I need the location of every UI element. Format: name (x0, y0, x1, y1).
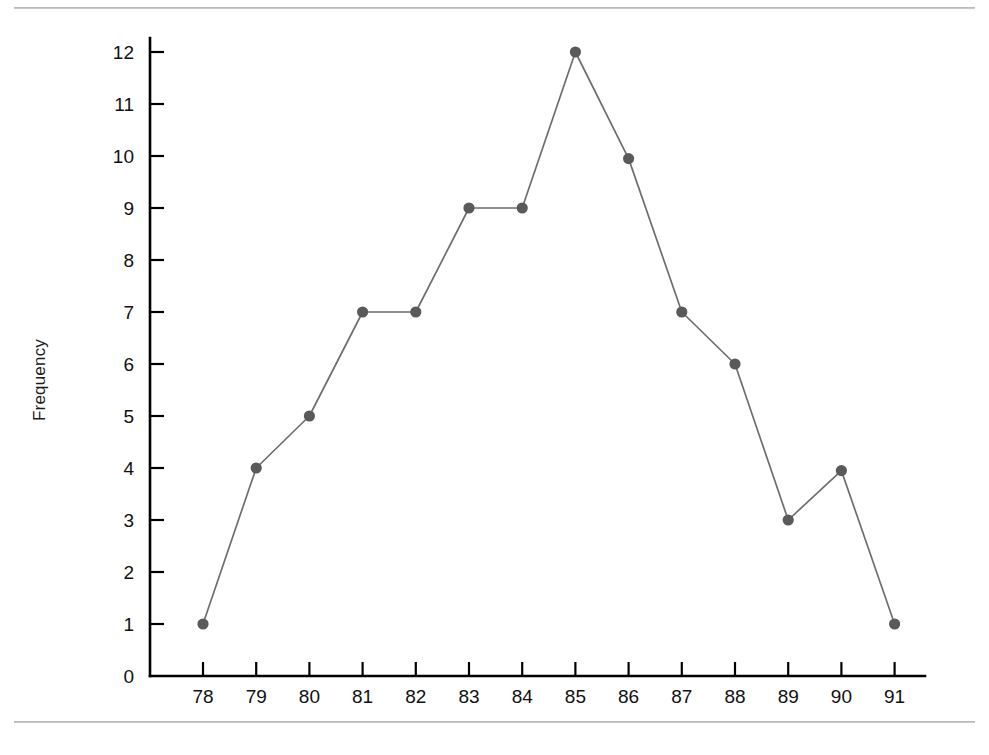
data-point-marker (304, 410, 315, 421)
y-axis-tick-group: 0123456789101112 (113, 42, 164, 687)
y-axis-tick-label: 9 (123, 198, 134, 219)
data-point-marker (463, 202, 474, 213)
x-axis-tick-label: 91 (884, 686, 905, 707)
y-axis-tick-label: 5 (123, 406, 134, 427)
y-axis-tick-label: 1 (123, 614, 134, 635)
data-polyline (203, 52, 895, 624)
x-axis-tick-group: 7879808182838485868788899091 (192, 662, 905, 707)
data-marker-group (197, 46, 900, 629)
x-axis-tick-label: 85 (565, 686, 586, 707)
y-axis-tick-label: 0 (123, 666, 134, 687)
y-axis-tick-label: 11 (114, 94, 134, 115)
data-point-marker (410, 306, 421, 317)
y-axis-tick-label: 10 (113, 146, 134, 167)
y-axis-tick-label: 8 (123, 250, 134, 271)
data-point-marker (729, 358, 740, 369)
x-axis-tick-label: 90 (831, 686, 852, 707)
x-axis-tick-label: 89 (778, 686, 799, 707)
x-axis-tick-label: 87 (671, 686, 692, 707)
x-axis-tick-label: 82 (405, 686, 426, 707)
x-axis-tick-label: 88 (724, 686, 745, 707)
bottom-divider-rule (14, 721, 975, 723)
data-point-marker (357, 306, 368, 317)
y-axis-tick-label: 7 (123, 302, 134, 323)
data-point-marker (570, 46, 581, 57)
y-axis-tick-label: 3 (123, 510, 134, 531)
figure-page: Frequency 0123456789101112 7879808182838… (0, 0, 989, 755)
data-point-marker (783, 514, 794, 525)
y-axis-tick-label: 2 (123, 562, 134, 583)
data-point-marker (623, 153, 634, 164)
data-point-marker (251, 462, 262, 473)
x-axis-tick-label: 78 (192, 686, 213, 707)
x-axis-tick-label: 81 (352, 686, 373, 707)
x-axis-tick-label: 80 (299, 686, 320, 707)
data-point-marker (676, 306, 687, 317)
x-axis-tick-label: 79 (246, 686, 267, 707)
y-axis-tick-label: 12 (113, 42, 134, 63)
frequency-polygon-chart: Frequency 0123456789101112 7879808182838… (0, 0, 989, 720)
data-point-marker (197, 618, 208, 629)
plot-svg: 0123456789101112 78798081828384858687888… (0, 0, 989, 720)
y-axis-tick-label: 4 (123, 458, 134, 479)
x-axis-tick-label: 83 (458, 686, 479, 707)
x-axis-tick-label: 84 (512, 686, 534, 707)
data-point-marker (889, 618, 900, 629)
x-axis-tick-label: 86 (618, 686, 639, 707)
data-point-marker (836, 465, 847, 476)
data-point-marker (517, 202, 528, 213)
y-axis-tick-label: 6 (123, 354, 134, 375)
